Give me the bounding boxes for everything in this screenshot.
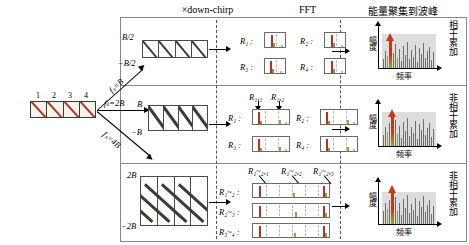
fft-spectrum-box [252,223,330,238]
plot-x-axis [378,146,438,147]
peak-arrow-head [388,185,396,193]
separator-chirp-fft [216,20,217,239]
chirp-top-label-row1: B/2 [122,32,134,42]
fft-result-label: R₃ : [228,140,241,150]
plot-y-axis [378,104,379,146]
fft-result-label: R₂ : [296,113,309,123]
peak-arrow-head [386,33,394,41]
plot-y-label: 幅度 [366,36,377,50]
fft-result-label: R₂ : [300,36,313,46]
row-tag-row3: 非相干累加 [447,171,460,216]
chirp-cell [141,177,158,225]
energy-arrow-row1 [332,51,346,52]
chirp-cell [164,106,179,130]
fft-result-label: R₁ : [240,36,253,46]
fft-spectrum-box [252,136,290,152]
chirp-cell [193,106,207,130]
fft-result-label: R₄ : [296,140,309,150]
frame-row1-row2 [120,85,467,86]
chirp-box-row2 [148,105,208,131]
frame-bottom [120,241,467,242]
peak-arrow [391,116,394,146]
peak-arrow [389,40,392,68]
frame-left [120,17,121,241]
plot-y-axis [378,26,379,68]
energy-arrow-row1-head [345,48,350,54]
chirp-bottom-label-row1: −B/2 [118,58,136,68]
plot-y-label: 幅度 [366,114,377,128]
column-header-energy: 能量聚集到波峰 [340,3,465,18]
pulse-number-3: 3 [68,91,72,100]
peak-arrow-head [388,109,396,117]
fft-spectrum-box [320,136,358,152]
chirp-box-row1 [142,40,208,58]
pulse-cell-2 [47,102,63,117]
fft-result-label: R₂~₃ : [219,207,240,217]
energy-plot-row2: 幅度 频率 [358,100,454,158]
plot-x-label: 频率 [396,148,412,159]
chirp-top-label-row3: 2B [127,170,136,180]
branch-label-2: fₛ=2B [104,98,125,108]
fft-result-label: R₁ : [228,113,241,123]
pulse-number-1: 1 [36,91,40,100]
chirp-cell [179,106,194,130]
energy-plot-row1: 幅度 频率 [358,22,454,80]
fft-result-label: R₃~₄ : [219,227,240,237]
plot-x-axis-arrow [437,143,442,149]
frame-right [466,17,467,241]
branch-arrow-3-head [146,154,154,162]
pulse-cell-4 [80,102,95,117]
fft-result-label: R₄ : [300,62,313,72]
plot-y-axis-arrow [375,177,381,182]
plot-x-axis [378,68,438,69]
plot-y-axis-arrow [375,99,381,104]
stage-arrow-row1-head [226,46,231,52]
peak-callout-label: R₁,₂ [271,92,284,102]
input-pulse-train [30,101,96,118]
chirp-top-label-row2: B [137,99,142,109]
energy-arrow-row2 [332,129,346,130]
fft-spectrum-box [324,58,346,74]
chirp-box-row3 [140,176,208,226]
chirp-cell [149,106,164,130]
energy-arrow-row2-head [345,126,350,132]
peak-arrow [391,192,394,224]
pulse-number-4: 4 [84,91,88,100]
figure-root: ×down-chirp FFT 能量聚集到波峰 1 2 3 4 fₛ=B fₛ=… [0,0,469,245]
plot-y-axis [378,182,379,224]
stage-arrow-row2 [209,124,227,125]
pulse-cell-1 [31,102,47,117]
pulse-number-2: 2 [52,91,56,100]
plot-x-axis [378,224,438,225]
branch-label-1: fₛ=B [107,76,126,94]
chirp-cell [143,41,159,57]
chirp-cell [158,177,175,225]
frame-row2-row3 [120,163,467,164]
row-tag-row1: 相干累加 [447,20,460,56]
stage-arrow-row3-head [226,199,231,205]
stage-arrow-row3 [209,202,227,203]
pulse-cell-3 [64,102,80,117]
fft-result-label: R₁~₂ : [219,187,240,197]
fft-spectrum-box [252,183,330,198]
fft-spectrum-box [252,109,290,125]
plot-x-label: 频率 [396,226,412,237]
chirp-cell [191,177,207,225]
branch-arrow-2 [97,110,147,111]
fft-spectrum-box [320,109,358,125]
chirp-cell [159,41,175,57]
chirp-bottom-label-row2: −B [131,127,142,137]
fft-spectrum-box [324,32,346,48]
plot-y-axis-arrow [375,21,381,26]
peak-callout-label: R₁,₁ [249,92,262,102]
plot-x-axis-arrow [437,221,442,227]
chirp-cell [192,41,207,57]
chirp-cell [176,41,192,57]
frame-top [120,17,467,18]
energy-plot-row3: 幅度 频率 [358,178,454,236]
row-tag-row2: 非相干累加 [447,93,460,138]
fft-spectrum-box [264,58,286,74]
fft-spectrum-box [264,32,286,48]
chirp-cell [175,177,192,225]
fft-result-label: R₃ : [240,62,253,72]
